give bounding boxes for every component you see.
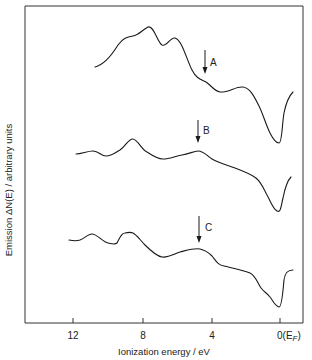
marker-arrow-c [197,216,202,243]
plot-frame [25,6,303,323]
curve-a [95,27,293,143]
x-tick-12: 12 [67,330,79,341]
marker-label-a: A [210,57,217,68]
x-tick-8: 8 [140,330,146,341]
x-ticks [73,318,280,323]
marker-label-b: B [203,125,210,136]
x-tick-0-ef: 0(EF) [277,330,301,343]
curve-c [69,232,293,307]
y-axis-label: Emission ΔN(E) / arbitrary units [3,123,14,256]
marker-label-c: C [205,222,212,233]
curve-b [76,139,291,211]
marker-arrow-a [203,50,208,74]
x-tick-4: 4 [209,330,215,341]
x-axis-label: Ionization energy / eV [118,346,211,357]
emission-spectra-chart: 12 8 4 0(EF) Ionization energy / eV Emis… [0,0,312,360]
marker-arrow-b [196,120,201,143]
